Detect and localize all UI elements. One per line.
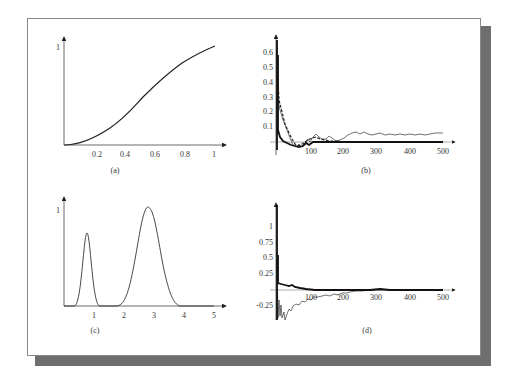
- x-tick: 100: [305, 147, 317, 156]
- y-tick: 0.4: [263, 78, 273, 87]
- series-thick: [277, 40, 443, 150]
- x-tick: 300: [370, 293, 382, 302]
- y-tick: 0.75: [259, 238, 273, 247]
- x-tick: 200: [337, 147, 349, 156]
- y-tick: 0.5: [263, 253, 273, 262]
- x-tick: 400: [404, 293, 416, 302]
- x-tick: 0.2: [92, 150, 102, 159]
- y-label: 1: [56, 206, 60, 215]
- series-thick: [277, 205, 443, 320]
- y-tick: -0.25: [256, 301, 273, 310]
- x-tick: 4: [182, 311, 186, 320]
- x-tick: 2: [122, 311, 126, 320]
- curve-a: [64, 46, 215, 145]
- curve-c: [64, 207, 214, 306]
- panel-d: 1 0.75 0.5 0.25 -0.25 100 200 300 400 50…: [256, 203, 455, 335]
- series-thin: [277, 48, 443, 147]
- y-tick: 0.1: [263, 122, 273, 131]
- x-tick: 400: [404, 147, 416, 156]
- panel-a: 1 0.2 0.4 0.6 0.8 1 (a): [56, 37, 226, 175]
- x-tick: 0.4: [120, 150, 130, 159]
- caption-a: (a): [111, 166, 120, 175]
- y-tick: 0.3: [263, 93, 273, 102]
- y-label: 1: [56, 43, 60, 52]
- panel-b: 0.6 0.5 0.4 0.3 0.2 0.1 100 200 300 400 …: [263, 35, 455, 175]
- x-tick: 3: [152, 311, 156, 320]
- caption-d: (d): [362, 326, 372, 335]
- x-tick: 500: [437, 147, 449, 156]
- x-tick: 1: [212, 150, 216, 159]
- caption-c: (c): [91, 326, 100, 335]
- y-tick: 0.5: [263, 63, 273, 72]
- y-tick: 0.6: [263, 48, 273, 57]
- x-tick: 1: [92, 311, 96, 320]
- y-tick: 1: [269, 222, 273, 231]
- caption-b: (b): [361, 166, 371, 175]
- x-tick: 300: [370, 147, 382, 156]
- x-tick: 5: [212, 311, 216, 320]
- x-tick: 0.8: [180, 150, 190, 159]
- series-dashed: [277, 60, 340, 146]
- x-tick: 0.6: [150, 150, 160, 159]
- y-tick: 0.25: [259, 269, 273, 278]
- figure-canvas: 1 0.2 0.4 0.6 0.8 1 (a) 0.6 0.5 0.4 0.3 …: [0, 0, 511, 386]
- y-tick: 0.2: [263, 107, 273, 116]
- panel-c: 1 1 2 3 4 5 (c): [56, 197, 226, 335]
- x-tick: 500: [437, 293, 449, 302]
